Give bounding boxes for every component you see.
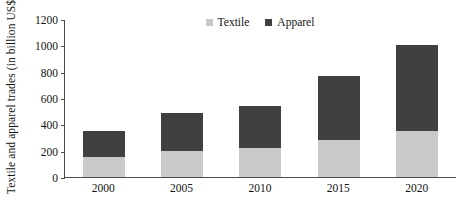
y-tick-label: 800 <box>41 67 58 79</box>
bar-segment-apparel[interactable] <box>318 76 360 141</box>
x-tick-label: 2005 <box>161 182 203 194</box>
stacked-bar-chart: Textile and apparel trades (in billion U… <box>0 0 464 215</box>
bar-segment-textile[interactable] <box>318 140 360 177</box>
x-tick-label: 2010 <box>239 182 281 194</box>
y-tick-label: 400 <box>41 119 58 131</box>
bar-segment-textile[interactable] <box>83 157 125 177</box>
y-tick-label: 1200 <box>35 14 58 26</box>
x-tick-label: 2015 <box>317 182 359 194</box>
bar-group[interactable] <box>83 20 125 177</box>
bars-layer <box>65 20 456 177</box>
y-tick-label: 600 <box>41 93 58 105</box>
x-tick-label: 2000 <box>82 182 124 194</box>
bar-segment-apparel[interactable] <box>239 106 281 148</box>
y-axis-title-label: Textile and apparel trades (in billion U… <box>5 0 17 194</box>
y-axis-title: Textile and apparel trades (in billion U… <box>0 0 22 190</box>
x-tick-label: 2020 <box>396 182 438 194</box>
bar-segment-textile[interactable] <box>396 131 438 177</box>
bar-stack <box>396 45 438 177</box>
bar-stack <box>239 106 281 177</box>
bar-segment-textile[interactable] <box>239 148 281 177</box>
bar-stack <box>83 131 125 177</box>
y-tick-label: 0 <box>52 172 58 184</box>
plot-area <box>64 20 456 178</box>
bar-segment-apparel[interactable] <box>83 131 125 157</box>
bar-group[interactable] <box>161 20 203 177</box>
y-tick-label: 200 <box>41 146 58 158</box>
bar-group[interactable] <box>239 20 281 177</box>
bar-group[interactable] <box>396 20 438 177</box>
bar-segment-apparel[interactable] <box>396 45 438 131</box>
bar-group[interactable] <box>318 20 360 177</box>
y-tick-label: 1000 <box>35 40 58 52</box>
y-axis-tick-labels: 020040060080010001200 <box>22 15 62 179</box>
x-axis-tick-labels: 20002005201020152020 <box>64 182 456 204</box>
bar-segment-textile[interactable] <box>161 151 203 177</box>
bar-stack <box>161 113 203 178</box>
bar-stack <box>318 76 360 177</box>
bar-segment-apparel[interactable] <box>161 113 203 151</box>
